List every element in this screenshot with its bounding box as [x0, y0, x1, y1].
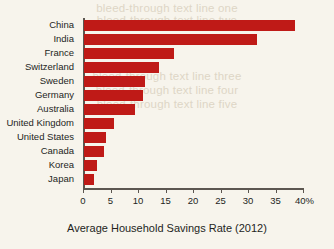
axis-tick-label: 0 — [80, 195, 85, 207]
axis-tick-label: 10 — [133, 195, 144, 207]
axis-tick-label: 30 — [243, 195, 254, 207]
category-label: United Kingdom — [0, 116, 79, 130]
category-label: Germany — [0, 88, 79, 102]
x-axis-title: Average Household Savings Rate (2012) — [0, 222, 334, 234]
axis-tick-label: 5 — [108, 195, 113, 207]
axis-tick-label: 25 — [215, 195, 226, 207]
axis-tick — [193, 188, 194, 193]
category-label: Japan — [0, 172, 79, 186]
bar — [84, 34, 257, 45]
plot-area: 0510152025303540% — [83, 18, 303, 188]
chart-page: bleed-through text line one bleed-throug… — [0, 0, 334, 249]
bar — [84, 174, 94, 185]
bar-row — [83, 158, 303, 172]
bar-row — [83, 116, 303, 130]
bar-row — [83, 32, 303, 46]
category-label: France — [0, 46, 79, 60]
bar-row — [83, 172, 303, 186]
bar — [84, 20, 295, 31]
bar — [84, 48, 174, 59]
bar — [84, 76, 145, 87]
category-label: Korea — [0, 158, 79, 172]
axis-tick — [111, 188, 112, 193]
axis-tick — [83, 188, 84, 193]
bar-chart: ChinaIndiaFranceSwitzerlandSwedenGermany… — [0, 0, 334, 249]
bar — [84, 104, 135, 115]
category-label: China — [0, 18, 79, 32]
value-axis-ticks — [83, 188, 304, 194]
value-axis-tick-labels: 0510152025303540% — [83, 195, 304, 209]
axis-tick-label: 35 — [270, 195, 281, 207]
bar-row — [83, 60, 303, 74]
category-label: Switzerland — [0, 60, 79, 74]
bar — [84, 62, 159, 73]
bar-row — [83, 74, 303, 88]
category-label: Canada — [0, 144, 79, 158]
axis-tick — [221, 188, 222, 193]
axis-tick — [303, 188, 304, 193]
axis-tick — [138, 188, 139, 193]
axis-tick — [276, 188, 277, 193]
category-label: United States — [0, 130, 79, 144]
axis-tick-label: 40% — [295, 195, 314, 207]
category-label: India — [0, 32, 79, 46]
axis-tick-label: 20 — [188, 195, 199, 207]
category-label: Australia — [0, 102, 79, 116]
bar-row — [83, 102, 303, 116]
bar — [84, 90, 143, 101]
bar-row — [83, 88, 303, 102]
bar — [84, 132, 106, 143]
axis-tick — [166, 188, 167, 193]
bar — [84, 160, 97, 171]
bar — [84, 118, 114, 129]
bars-group — [83, 18, 303, 186]
bar — [84, 146, 104, 157]
bar-row — [83, 144, 303, 158]
category-axis-labels: ChinaIndiaFranceSwitzerlandSwedenGermany… — [0, 18, 79, 186]
category-label: Sweden — [0, 74, 79, 88]
axis-tick — [248, 188, 249, 193]
bar-row — [83, 130, 303, 144]
bar-row — [83, 18, 303, 32]
axis-tick-label: 15 — [160, 195, 171, 207]
bar-row — [83, 46, 303, 60]
